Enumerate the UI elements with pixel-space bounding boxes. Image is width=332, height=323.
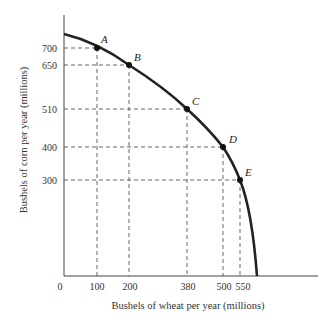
y-tick-700: 700 — [42, 43, 57, 54]
y-tick-300: 300 — [42, 175, 57, 186]
point-a — [94, 45, 100, 51]
y-tick-650: 650 — [42, 60, 57, 71]
label-e: E — [244, 166, 252, 178]
y-axis-title: Bushels of corn per year (millions) — [18, 66, 30, 213]
label-b: B — [134, 51, 141, 63]
y-tick-400: 400 — [42, 142, 57, 153]
point-c — [184, 106, 190, 112]
x-tick-500: 500 — [217, 281, 232, 292]
guide-lines — [64, 48, 240, 276]
x-tick-200: 200 — [123, 281, 138, 292]
point-d — [220, 144, 226, 150]
x-tick-550: 550 — [236, 281, 251, 292]
point-b — [126, 62, 132, 68]
ppf-curve — [64, 34, 257, 276]
y-tick-510: 510 — [42, 104, 57, 115]
data-points — [94, 45, 243, 183]
x-axis-title: Bushels of wheat per year (millions) — [111, 300, 265, 312]
label-d: D — [228, 133, 237, 145]
x-tick-100: 100 — [90, 281, 105, 292]
label-c: C — [192, 95, 200, 107]
point-e — [237, 177, 243, 183]
ppf-chart: A B C D E 700 650 510 400 300 0 100 200 … — [0, 0, 332, 323]
label-a: A — [100, 33, 108, 45]
x-tick-380: 380 — [181, 281, 196, 292]
x-tick-0: 0 — [58, 281, 63, 292]
